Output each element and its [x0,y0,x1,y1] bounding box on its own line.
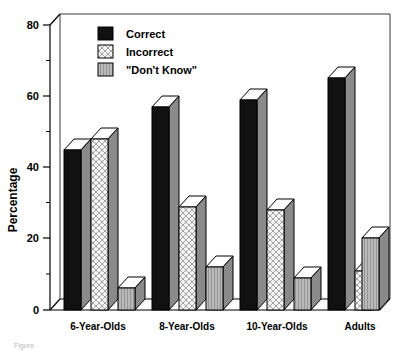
bar-correct[interactable] [328,67,355,310]
figure-container: 80 60 40 20 0 Percentage [0,0,408,351]
x-tick-label: Adults [344,321,376,332]
legend-item-incorrect[interactable]: Incorrect [98,45,173,58]
y-tick-label: 60 [27,90,39,102]
bar-dont-know[interactable] [206,256,233,310]
bar-incorrect[interactable] [179,196,206,310]
bar-incorrect[interactable] [267,199,294,310]
figure-caption-text: Figure [14,342,34,350]
x-tick-label: 10-Year-Olds [246,321,308,332]
x-axis-tick-labels: 6-Year-Olds 8-Year-Olds 10-Year-Olds Adu… [70,321,376,332]
bar-dont-know[interactable] [362,227,389,310]
x-tick-label: 8-Year-Olds [159,321,215,332]
y-axis-ticks [43,25,50,310]
legend-item-dont-know[interactable]: "Don't Know" [98,63,197,76]
figure-caption: Figure [14,342,34,350]
bar-dont-know[interactable] [294,267,321,310]
legend-swatch-dont-know [98,63,113,76]
y-axis-title: Percentage [6,167,20,232]
y-tick-label: 80 [27,19,39,31]
bar-chart: 80 60 40 20 0 Percentage [0,0,408,351]
bar-correct[interactable] [64,139,91,310]
legend-swatch-incorrect [98,45,113,58]
y-tick-label: 0 [33,304,39,316]
bar-correct[interactable] [152,96,179,310]
legend-item-correct[interactable]: Correct [98,27,165,40]
legend-swatch-correct [98,27,113,40]
y-tick-label: 40 [27,161,39,173]
bar-incorrect[interactable] [91,128,118,310]
legend-label-incorrect: Incorrect [126,46,173,58]
x-tick-label: 6-Year-Olds [70,321,126,332]
y-tick-label: 20 [27,232,39,244]
bar-correct[interactable] [240,89,267,310]
legend-label-dont-know: "Don't Know" [126,64,197,76]
legend-label-correct: Correct [126,28,165,40]
y-axis-title-text: Percentage [6,167,20,232]
y-axis-tick-labels: 80 60 40 20 0 [27,19,39,316]
